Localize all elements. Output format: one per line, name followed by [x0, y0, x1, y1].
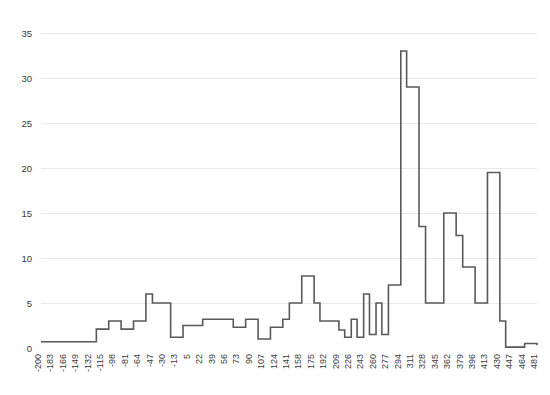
x-axis-tick-label: 158 [293, 354, 303, 369]
y-axis-tick-label: 5 [27, 298, 32, 309]
x-axis-tick-label: 260 [368, 354, 378, 369]
x-axis-tick-label: 73 [231, 354, 241, 364]
x-axis-tick-label: -30 [157, 354, 167, 367]
y-axis-tick-label: 25 [21, 118, 32, 129]
y-axis-tick-label: 30 [21, 73, 32, 84]
x-axis-tick-label: -47 [145, 354, 155, 367]
line-chart: 05101520253035-200-183-166-149-132-115-9… [0, 0, 550, 395]
x-axis-tick-label: -132 [83, 354, 93, 372]
x-axis-tick-label: -149 [70, 354, 80, 372]
x-axis-tick-label: 294 [393, 354, 403, 369]
x-axis-tick-label: 39 [207, 354, 217, 364]
x-axis-tick-label: 430 [492, 354, 502, 369]
x-axis-tick-label: 243 [355, 354, 365, 369]
x-axis-tick-label: 141 [281, 354, 291, 369]
x-axis-tick-label: 362 [442, 354, 452, 369]
x-axis-tick-label: 5 [182, 354, 192, 359]
x-axis-tick-label: -98 [107, 354, 117, 367]
x-axis-tick-label: 175 [306, 354, 316, 369]
x-axis-tick-label: -183 [45, 354, 55, 372]
x-axis-tick-label: 396 [467, 354, 477, 369]
x-axis-tick-label: -166 [58, 354, 68, 372]
x-axis-tick-label: 192 [318, 354, 328, 369]
x-axis-tick-label: -81 [120, 354, 130, 367]
x-axis-tick-label: 413 [479, 354, 489, 369]
x-axis-tick-label: 328 [417, 354, 427, 369]
x-axis-tick-label: 311 [405, 354, 415, 368]
x-axis-tick-label: 107 [256, 354, 266, 369]
chart-container: 05101520253035-200-183-166-149-132-115-9… [0, 0, 550, 395]
x-axis-tick-label: 481 [529, 354, 539, 369]
y-axis-tick-label: 35 [21, 28, 32, 39]
x-axis-tick-label: 56 [219, 354, 229, 364]
x-axis-tick-label: 447 [504, 354, 514, 369]
x-axis-tick-label: -64 [132, 354, 142, 367]
x-axis-tick-label: 90 [244, 354, 254, 364]
x-axis-tick-label: 209 [331, 354, 341, 369]
x-axis-tick-label: -200 [33, 354, 43, 372]
x-axis-tick-label: 345 [430, 354, 440, 369]
x-axis-tick-label: -13 [169, 354, 179, 367]
x-axis-tick-label: 124 [269, 354, 279, 369]
x-axis-tick-label: -115 [95, 354, 105, 371]
x-axis-tick-label: 22 [194, 354, 204, 364]
x-axis-tick-label: 379 [455, 354, 465, 369]
x-axis-tick-label: 464 [517, 354, 527, 369]
y-axis-tick-label: 20 [21, 163, 32, 174]
y-axis-tick-label: 0 [27, 343, 32, 354]
x-axis-tick-label: 277 [380, 354, 390, 369]
y-axis-tick-label: 15 [21, 208, 32, 219]
y-axis-tick-label: 10 [21, 253, 32, 264]
x-axis-tick-label: 226 [343, 354, 353, 369]
